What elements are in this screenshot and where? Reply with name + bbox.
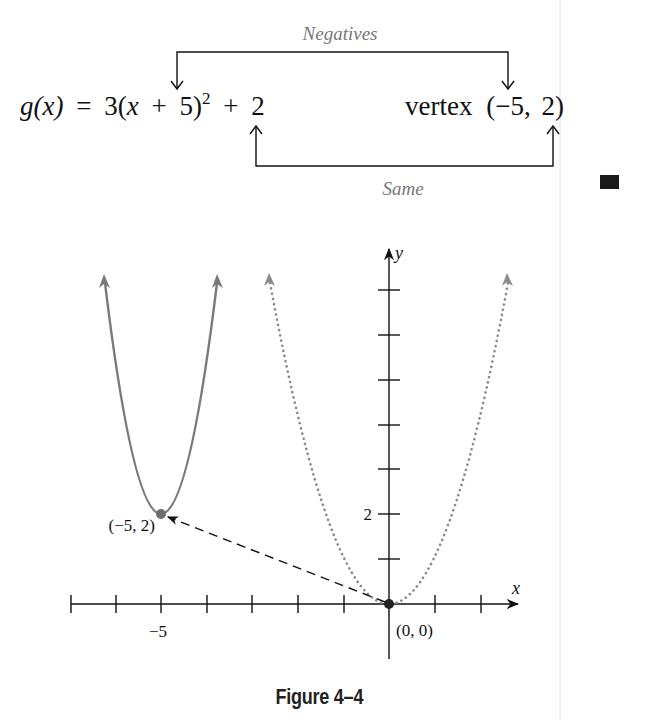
y-tick-label: 2 xyxy=(364,505,373,524)
figure-caption: Figure 4–4 xyxy=(51,684,588,710)
x-axis-label: x xyxy=(511,578,520,598)
shift-arrow xyxy=(168,517,385,602)
origin-point xyxy=(384,599,394,609)
y-axis-label: y xyxy=(393,243,403,263)
transformed-parabola xyxy=(105,283,217,514)
x-tick-label: −5 xyxy=(149,622,167,641)
vertex-point-label: (−5, 2) xyxy=(109,516,155,535)
origin-point-label: (0, 0) xyxy=(396,621,433,640)
graph: x −5 y 2 (−5, 2) (0, 0) xyxy=(0,0,655,720)
vertex-point xyxy=(156,509,166,519)
